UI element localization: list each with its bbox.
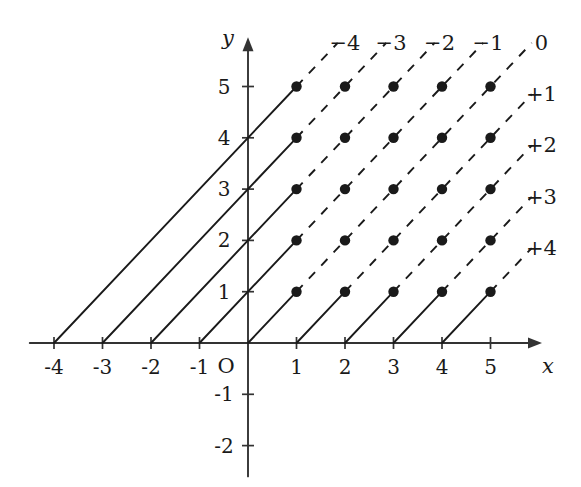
solid-segment: [151, 189, 297, 343]
line-constant-label-c-minus-4: −4: [330, 32, 361, 53]
lattice-point-1-1: [291, 287, 301, 297]
lattice-point-2-1: [340, 287, 350, 297]
lattice-point-1-3: [291, 184, 301, 194]
lattice-point-3-1: [388, 287, 398, 297]
lattice-point-5-3: [485, 184, 495, 194]
x-tick-label-5: 5: [484, 357, 497, 377]
line-constant-label-c-minus-3: −3: [376, 32, 407, 53]
line-constant-label-c-plus-2: +2: [526, 135, 557, 156]
y-tick-label-4: 4: [218, 128, 231, 148]
y-tick-label-3: 3: [218, 179, 231, 199]
y-tick-label--2: -2: [214, 436, 233, 456]
lattice-point-5-1: [485, 287, 495, 297]
y-tick-label-5: 5: [218, 77, 231, 97]
slope-line-9: [442, 248, 532, 343]
dashed-segment: [442, 197, 532, 292]
solid-segment: [54, 87, 297, 344]
y-tick-label--1: -1: [214, 384, 233, 404]
plot-canvas: [0, 0, 581, 487]
y-axis-name: y: [222, 28, 234, 49]
lattice-point-3-5: [388, 81, 398, 91]
lattice-point-2-2: [340, 235, 350, 245]
dashed-segment: [297, 43, 484, 241]
lattice-point-3-2: [388, 235, 398, 245]
solid-segment: [297, 292, 346, 343]
dashed-segment: [297, 43, 532, 292]
lattice-point-2-3: [340, 184, 350, 194]
x-tick-label-1: 1: [290, 357, 303, 377]
solid-segment: [248, 292, 297, 343]
solid-segment: [103, 138, 297, 343]
lattice-point-2-4: [340, 133, 350, 143]
lattice-point-5-2: [485, 235, 495, 245]
lattice-point-1-2: [291, 235, 301, 245]
origin-label: O: [217, 356, 234, 377]
lattice-point-4-5: [437, 81, 447, 91]
solid-segment: [442, 292, 491, 343]
x-tick-label--4: -4: [44, 357, 63, 377]
slope-line-6: [297, 94, 532, 343]
x-tick-label--2: -2: [141, 357, 160, 377]
lattice-point-4-4: [437, 133, 447, 143]
line-constant-label-c-plus-1: +1: [526, 84, 557, 105]
solid-segment: [394, 292, 443, 343]
lattice-point-3-3: [388, 184, 398, 194]
lattice-point-4-3: [437, 184, 447, 194]
axes-group: [30, 37, 542, 476]
line-constant-label-c-minus-2: −2: [424, 32, 455, 53]
y-tick-label-1: 1: [218, 282, 231, 302]
y-tick-label-2: 2: [218, 230, 231, 250]
dashed-segment: [345, 94, 532, 292]
x-tick-label--1: -1: [190, 357, 209, 377]
x-tick-label--3: -3: [93, 357, 112, 377]
x-tick-label-2: 2: [339, 357, 352, 377]
lattice-point-5-4: [485, 133, 495, 143]
dashed-segment: [394, 145, 532, 291]
slope-line-7: [345, 145, 532, 343]
lattice-point-3-4: [388, 133, 398, 143]
line-constant-label-c-plus-3: +3: [526, 186, 557, 207]
lattice-point-5-5: [485, 81, 495, 91]
lattice-point-4-2: [437, 235, 447, 245]
y-axis-arrowhead: [243, 37, 254, 51]
lattice-lines-figure: -4-3-2-11234554321-1-2Oxy−4−3−2−10+1+2+3…: [0, 0, 581, 487]
lattice-point-4-1: [437, 287, 447, 297]
dashed-segment: [297, 43, 387, 138]
lattice-point-1-5: [291, 81, 301, 91]
line-constant-label-c-minus-1: −1: [473, 32, 504, 53]
x-tick-label-4: 4: [436, 357, 449, 377]
line-constant-label-c-zero: 0: [535, 32, 548, 53]
x-axis-arrowhead: [528, 338, 542, 349]
x-tick-label-3: 3: [387, 357, 400, 377]
x-axis-name: x: [542, 356, 554, 377]
lattice-point-2-5: [340, 81, 350, 91]
dashed-segment: [297, 43, 435, 189]
line-constant-label-c-plus-4: +4: [526, 238, 557, 259]
lattice-point-1-4: [291, 133, 301, 143]
solid-segment: [345, 292, 394, 343]
